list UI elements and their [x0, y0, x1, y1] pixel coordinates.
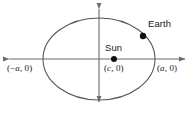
label-vertex-right-rest: , 0) — [165, 63, 177, 73]
sun-dot — [111, 56, 117, 62]
label-earth: Earth — [148, 19, 171, 29]
ellipse-orbit-diagram: (−a, 0) (a, 0) (c, 0) Sun Earth — [0, 0, 195, 114]
label-sun: Sun — [105, 43, 122, 53]
label-vertex-right: (a, 0) — [157, 64, 177, 73]
earth-dot — [140, 33, 146, 39]
label-focus-rest: , 0) — [111, 63, 123, 73]
label-vertex-left-rest: , 0) — [20, 63, 32, 73]
label-vertex-left: (−a, 0) — [7, 64, 32, 73]
label-focus-point: (c, 0) — [104, 64, 124, 73]
